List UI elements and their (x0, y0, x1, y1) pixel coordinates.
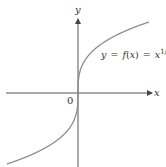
cube-root-graph: y x 0 y = f(x) = x1/3 (0, 0, 166, 167)
y-axis-label: y (74, 4, 81, 15)
x-axis-label: x (154, 87, 160, 98)
origin-label: 0 (67, 95, 73, 106)
function-label: y = f(x) = x1/3 (100, 48, 166, 60)
